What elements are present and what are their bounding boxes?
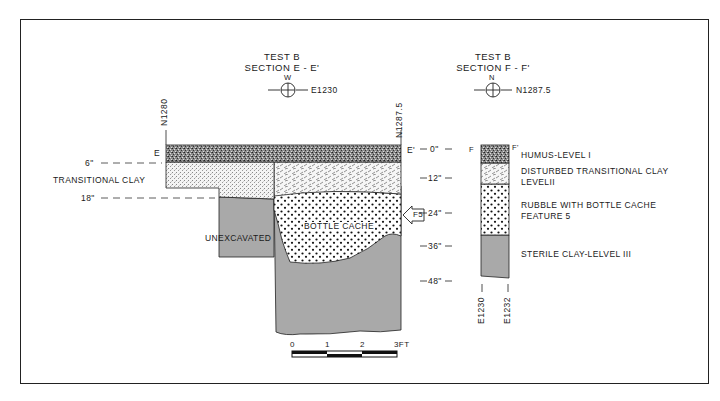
section-f-title-line2: SECTION F - F'	[433, 62, 553, 73]
bottle-cache-label: BOTTLE CACHE	[303, 222, 375, 231]
section-e-left-end: E	[154, 149, 160, 158]
transitional-clay-label: TRANSITIONAL CLAY	[53, 176, 145, 185]
section-e-datum-label: E1230	[311, 86, 338, 95]
section-f-datum-direction: N	[489, 74, 495, 82]
section-e-datum-direction: W	[284, 74, 291, 82]
depth-scale-12: 12"	[428, 174, 442, 183]
scale-bar	[292, 351, 397, 357]
depth-label-18: 18"	[81, 194, 95, 203]
section-e-profile	[166, 145, 401, 335]
section-f-left-end: F	[469, 146, 474, 154]
scale-tick-0: 0	[290, 341, 295, 349]
grid-label-n1287-5: N1287.5	[395, 102, 404, 138]
section-e-title-line1: TEST B	[222, 51, 342, 62]
datum-symbol-e	[268, 83, 308, 97]
scale-end-label: 3FT	[394, 341, 409, 349]
grid-label-e1232: E1232	[503, 297, 512, 324]
datum-symbol-f	[474, 83, 512, 97]
section-f-right-end: F'	[512, 144, 519, 152]
legend-disturbed-line1: DISTURBED TRANSITIONAL CLAY	[521, 167, 669, 176]
depth-scale-0: 0"	[430, 145, 439, 154]
section-e-title: TEST B SECTION E - E'	[222, 51, 342, 73]
section-f-title-line1: TEST B	[433, 51, 553, 62]
legend-rubble-line2: FEATURE 5	[521, 212, 571, 221]
depth-label-6: 6"	[85, 159, 94, 168]
depth-scale-36: 36"	[428, 242, 442, 251]
section-e-title-line2: SECTION E - E'	[222, 62, 342, 73]
scale-tick-1: 1	[325, 341, 330, 349]
legend-rubble-line1: RUBBLE WITH BOTTLE CACHE	[521, 201, 656, 210]
grid-label-n1280: N1280	[160, 98, 169, 126]
legend-humus: HUMUS-LEVEL I	[521, 151, 591, 160]
section-f-profile	[481, 145, 509, 278]
legend-sterile: STERILE CLAY-LELVEL III	[521, 250, 631, 259]
feature-marker-label: F5	[413, 211, 423, 219]
legend-disturbed-line2: LEVELII	[521, 178, 555, 187]
section-f-datum-label: N1287.5	[516, 86, 551, 95]
section-f-title: TEST B SECTION F - F'	[433, 51, 553, 73]
scale-tick-2: 2	[360, 341, 365, 349]
depth-scale-24: 24"	[428, 209, 442, 218]
section-e-right-end: E'	[407, 146, 415, 155]
depth-scale-48: 48"	[428, 277, 442, 286]
unexcavated-label: UNEXCAVATED	[205, 234, 271, 243]
grid-label-e1230: E1230	[477, 297, 486, 324]
